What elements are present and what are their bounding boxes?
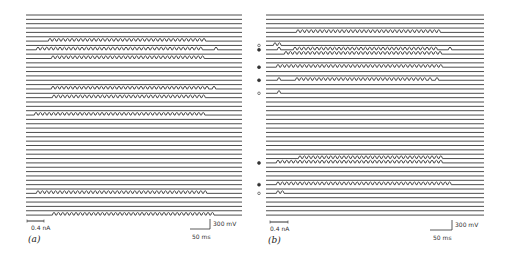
filled-circle-marker-icon [258, 48, 261, 51]
spiking-trace [26, 191, 242, 194]
panel-b-current-scale-label: 0.4 nA [270, 225, 289, 232]
open-circle-marker-icon [258, 44, 261, 47]
panel-a-traces [26, 15, 242, 215]
spiking-trace [266, 156, 484, 159]
panel-b-current-scale-bar [270, 221, 288, 224]
spiking-trace [26, 86, 242, 89]
spiking-trace [266, 30, 484, 33]
panel-b-voltage-scale-label: 300 mV [455, 221, 478, 228]
spiking-trace [26, 113, 242, 116]
spiking-trace [266, 47, 484, 50]
panel-b-label: (b) [268, 235, 281, 245]
spiking-trace [266, 160, 484, 163]
spiking-trace [26, 95, 242, 98]
panel-b-voltage-time-scale-bar [430, 220, 452, 230]
spiking-trace [266, 65, 484, 68]
panel-a-time-scale-label: 50 ms [192, 233, 211, 240]
panel-b-traces [258, 15, 485, 215]
filled-circle-marker-icon [258, 66, 261, 69]
panel-a-current-scale-label: 0.4 nA [31, 224, 50, 231]
open-circle-marker-icon [258, 92, 261, 95]
open-circle-marker-icon [258, 192, 261, 195]
figure-canvas [0, 0, 507, 259]
spiking-trace [26, 56, 242, 59]
spiking-trace [266, 43, 484, 46]
spiking-trace [266, 191, 484, 194]
filled-circle-marker-icon [258, 161, 261, 164]
spiking-trace [266, 182, 484, 185]
panel-a-label: (a) [28, 234, 40, 244]
panel-a-current-scale-bar [27, 220, 44, 223]
panel-a-voltage-scale-label: 300 mV [213, 220, 236, 227]
filled-circle-marker-icon [258, 183, 261, 186]
spiking-trace [26, 47, 242, 50]
spiking-trace [26, 213, 242, 216]
panel-a-voltage-time-scale-bar [190, 219, 210, 229]
panel-b-time-scale-label: 50 ms [433, 234, 452, 241]
spiking-trace [26, 39, 242, 42]
spiking-trace [266, 52, 484, 55]
filled-circle-marker-icon [258, 79, 261, 82]
spiking-trace [266, 78, 484, 81]
spiking-trace [266, 91, 484, 94]
